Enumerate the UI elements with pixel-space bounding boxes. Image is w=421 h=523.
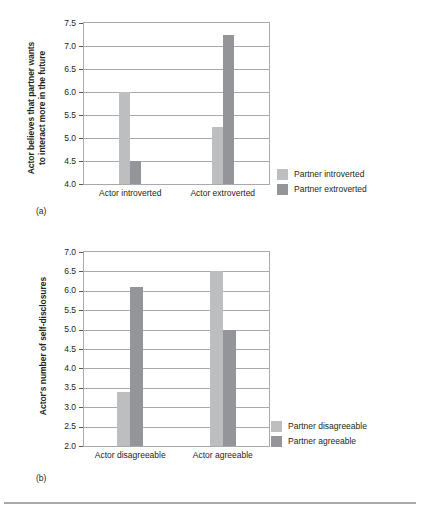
y-axis-tick-label: 5.5 <box>52 306 76 315</box>
y-axis-tick-label: 4.5 <box>52 345 76 354</box>
gridline <box>84 330 269 331</box>
gridline <box>84 69 269 70</box>
legend-label: Partner disagreeable <box>288 421 367 431</box>
bar <box>223 35 234 185</box>
y-axis-tick-label: 3.5 <box>52 383 76 392</box>
panel-letter-b: (b) <box>36 473 46 483</box>
x-axis-category-label: Actor extroverted <box>163 188 283 198</box>
y-axis-tick <box>79 115 83 116</box>
footer-rule <box>4 502 416 504</box>
y-axis-tick <box>79 349 83 350</box>
y-axis-tick <box>79 271 83 272</box>
legend-item: Partner agreeable <box>271 435 367 447</box>
legend-b: Partner disagreeable Partner agreeable <box>271 420 367 450</box>
y-axis-tick <box>79 23 83 24</box>
x-axis-category-label: Actor agreeable <box>163 450 283 460</box>
y-axis-tick <box>79 161 83 162</box>
gridline <box>84 138 269 139</box>
legend-swatch-icon <box>271 436 282 447</box>
y-axis-tick <box>79 184 83 185</box>
y-axis-tick <box>79 291 83 292</box>
y-axis-tick <box>79 368 83 369</box>
bar <box>117 392 130 446</box>
legend-swatch-icon <box>271 421 282 432</box>
y-axis-tick <box>79 407 83 408</box>
gridline <box>84 271 269 272</box>
y-axis-tick-label: 4.0 <box>52 364 76 373</box>
y-axis-tick-label: 5.0 <box>52 325 76 334</box>
gridline <box>84 161 269 162</box>
y-axis-tick-label: 3.0 <box>52 403 76 412</box>
gridline <box>84 115 269 116</box>
legend-item: Partner introverted <box>277 168 367 180</box>
gridline <box>84 368 269 369</box>
chart-panel-b: Actor's number of self-disclosures 7.06.… <box>0 243 421 493</box>
panel-letter-a: (a) <box>36 206 46 216</box>
gridline <box>84 291 269 292</box>
bar <box>223 330 236 446</box>
y-axis-tick <box>79 138 83 139</box>
y-axis-tick <box>79 252 83 253</box>
gridline <box>84 349 269 350</box>
y-axis-tick-label: 6.0 <box>52 286 76 295</box>
legend-label: Partner introverted <box>294 169 364 179</box>
y-axis-tick-label: 6.5 <box>52 267 76 276</box>
plot-area-a <box>83 22 270 185</box>
gridline <box>84 407 269 408</box>
figure-container: Actor believes that partner wants to int… <box>0 0 421 523</box>
y-axis-tick-label: 7.5 <box>52 19 76 28</box>
y-axis-tick-label: 4.5 <box>52 157 76 166</box>
bar <box>210 271 223 446</box>
plot-area-b <box>83 251 270 447</box>
legend-a: Partner introverted Partner extroverted <box>277 168 367 198</box>
y-axis-tick <box>79 46 83 47</box>
legend-label: Partner agreeable <box>288 436 356 446</box>
y-axis-tick-label: 6.5 <box>52 65 76 74</box>
gridline <box>84 310 269 311</box>
bar <box>119 92 130 184</box>
y-axis-tick-label: 7.0 <box>52 42 76 51</box>
gridline <box>84 46 269 47</box>
y-axis-title-b: Actor's number of self-disclosures <box>38 251 49 441</box>
legend-swatch-icon <box>277 184 288 195</box>
y-axis-tick-label: 7.0 <box>52 248 76 257</box>
y-axis-tick <box>79 69 83 70</box>
y-axis-tick-label: 2.5 <box>52 422 76 431</box>
chart-panel-a: Actor believes that partner wants to int… <box>0 8 421 226</box>
legend-item: Partner disagreeable <box>271 420 367 432</box>
bar <box>212 127 223 185</box>
y-axis-tick <box>79 330 83 331</box>
bar <box>130 161 141 184</box>
y-axis-tick <box>79 388 83 389</box>
gridline <box>84 427 269 428</box>
y-axis-title-a: Actor believes that partner wants to int… <box>26 22 47 194</box>
bar <box>130 287 143 446</box>
y-axis-tick-label: 6.0 <box>52 88 76 97</box>
y-axis-tick <box>79 446 83 447</box>
y-axis-tick-label: 5.5 <box>52 111 76 120</box>
y-axis-tick <box>79 92 83 93</box>
y-axis-tick-label: 5.0 <box>52 134 76 143</box>
gridline <box>84 92 269 93</box>
legend-label: Partner extroverted <box>294 184 367 194</box>
y-axis-tick <box>79 427 83 428</box>
legend-item: Partner extroverted <box>277 183 367 195</box>
gridline <box>84 388 269 389</box>
legend-swatch-icon <box>277 169 288 180</box>
y-axis-tick <box>79 310 83 311</box>
